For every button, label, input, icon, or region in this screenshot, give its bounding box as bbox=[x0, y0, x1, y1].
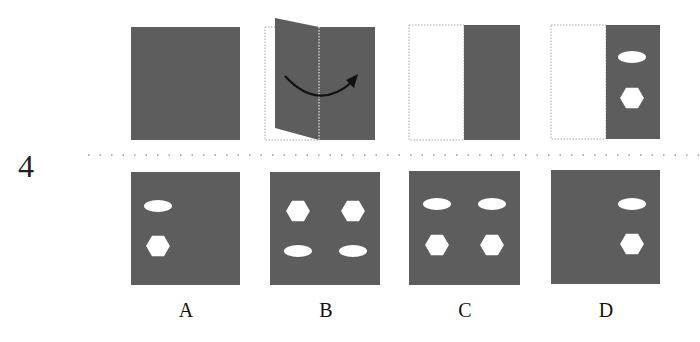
puzzle-canvas bbox=[0, 0, 700, 342]
question-number: 4 bbox=[18, 148, 34, 185]
right-half bbox=[319, 27, 375, 140]
step-4-punched bbox=[551, 25, 660, 139]
option-c[interactable] bbox=[409, 171, 520, 285]
folding-flap bbox=[275, 18, 319, 140]
ellipse-hole bbox=[478, 198, 506, 210]
ellipse-hole bbox=[618, 198, 646, 210]
ellipse-hole bbox=[144, 200, 172, 212]
ellipse-hole bbox=[618, 51, 646, 63]
dotted-outline bbox=[409, 25, 464, 140]
step-1-square bbox=[131, 27, 240, 140]
step-2-folding bbox=[265, 18, 375, 140]
ellipse-hole bbox=[284, 245, 312, 257]
option-label-d[interactable]: D bbox=[586, 299, 626, 322]
option-label-a[interactable]: A bbox=[166, 299, 206, 322]
step-3-folded bbox=[409, 25, 520, 140]
option-b[interactable] bbox=[270, 172, 380, 285]
ellipse-hole bbox=[339, 245, 367, 257]
folded-paper bbox=[606, 25, 660, 139]
option-a[interactable] bbox=[131, 172, 240, 285]
option-label-b[interactable]: B bbox=[306, 299, 346, 322]
ellipse-hole bbox=[423, 198, 451, 210]
option-label-c[interactable]: C bbox=[445, 299, 485, 322]
dotted-outline bbox=[551, 25, 606, 139]
folded-paper bbox=[464, 25, 520, 140]
option-d[interactable] bbox=[551, 170, 660, 284]
